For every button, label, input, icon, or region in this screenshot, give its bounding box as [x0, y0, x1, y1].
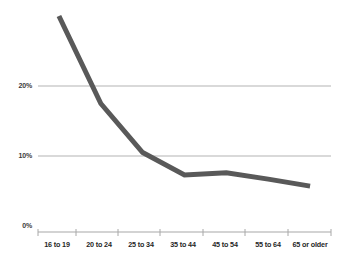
y-axis-tick-label-10: 10% — [6, 152, 32, 160]
x-axis-tick-label-45-to-54: 45 to 54 — [204, 240, 246, 249]
chart-plot-area — [0, 0, 345, 272]
line-chart: 20% 10% 0% 16 to 19 20 to 24 25 to 34 35… — [0, 0, 345, 272]
y-axis-tick-label-20: 20% — [6, 82, 32, 90]
x-axis-tick-label-25-to-34: 25 to 34 — [120, 240, 162, 249]
data-series-line — [59, 16, 310, 186]
x-axis-tick-label-55-to-64: 55 to 64 — [247, 240, 289, 249]
x-axis-tick-label-35-to-44: 35 to 44 — [162, 240, 204, 249]
x-axis-tick-label-16-to-19: 16 to 19 — [36, 240, 78, 249]
x-axis-tick-label-65-or-older: 65 or older — [285, 240, 335, 249]
x-axis — [38, 229, 331, 236]
x-axis-tick-label-20-to-24: 20 to 24 — [78, 240, 120, 249]
y-axis-tick-label-0: 0% — [6, 222, 32, 230]
gridlines — [38, 86, 331, 156]
